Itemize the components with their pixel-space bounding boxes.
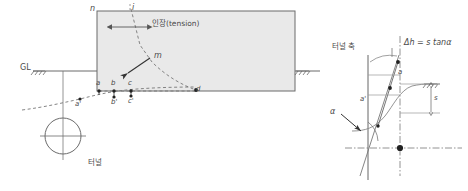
tunnel-label: 터널: [88, 159, 102, 167]
label-n: n: [90, 5, 95, 13]
point-label-d: d: [196, 86, 200, 93]
right-angle-pointer: [341, 114, 361, 131]
ground-hatch-left: [31, 71, 46, 75]
point-label-c-prime: c': [128, 98, 134, 105]
point-label-b: b: [111, 80, 115, 87]
tunnel-axis-label: 터널 축: [332, 43, 355, 51]
right-point-label-a-prime: a': [360, 96, 366, 103]
offset-s-label: s: [434, 95, 438, 102]
ground-level-label: GL: [20, 64, 31, 72]
point-label-a: a: [96, 80, 100, 87]
figure-canvas: GL n i m 인장(tension) a b c d a' b' c' 터널…: [0, 0, 468, 191]
diagram-vector-layer: [0, 0, 468, 191]
displaced-node-dots: [78, 94, 132, 100]
ground-hatch-right: [295, 71, 310, 75]
right-tangent-line: [360, 55, 399, 176]
right-ground-hatch: [423, 84, 438, 88]
right-leader-lines: [368, 75, 440, 113]
right-settlement-curve: [352, 84, 440, 131]
point-label-a-prime: a': [75, 101, 81, 108]
label-m: m: [154, 52, 162, 60]
alpha-angle-label: α: [330, 108, 335, 116]
label-i: i: [132, 4, 134, 12]
right-top-arc: [370, 55, 397, 62]
right-point-label-a: a: [398, 69, 402, 76]
point-label-b-prime: b': [111, 99, 117, 106]
point-label-c: c: [128, 80, 132, 87]
tension-label: 인장(tension): [152, 20, 200, 28]
delta-h-formula: Δh = s tanα: [404, 39, 451, 47]
right-slope-chord: [378, 62, 398, 126]
